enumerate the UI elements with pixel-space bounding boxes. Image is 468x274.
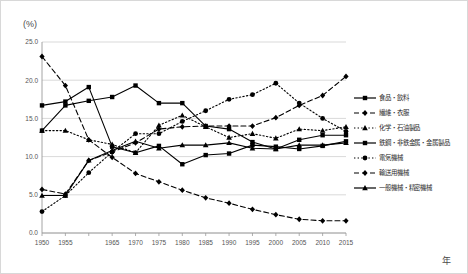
svg-text:10.0: 10.0 [25, 153, 38, 160]
svg-text:2000: 2000 [269, 239, 284, 246]
svg-text:1985: 1985 [198, 239, 213, 246]
svg-text:1990: 1990 [222, 239, 237, 246]
legend-swatch-triangle-icon [353, 182, 377, 194]
legend-label-4: 鉄鋼・非鉄金属・金属製品 [379, 137, 450, 149]
legend-swatch-diamond-icon [353, 107, 377, 119]
series-7 [39, 138, 349, 197]
x-axis-ticks: 1950195519651970197519801985199019952000… [35, 239, 354, 246]
legend-item-7[interactable]: 一般機械・精密機械 [353, 181, 465, 194]
legend-label-5: 電気機械 [379, 152, 403, 164]
svg-text:1955: 1955 [58, 239, 73, 246]
svg-text:2005: 2005 [292, 239, 307, 246]
legend-label-6: 輸送用機械 [379, 167, 409, 179]
legend-item-4[interactable]: 鉄鋼・非鉄金属・金属製品 [353, 136, 465, 149]
legend-item-5[interactable]: 電気機械 [353, 151, 465, 164]
legend-item-1[interactable]: 食品・飲料 [353, 91, 465, 104]
svg-text:5.0: 5.0 [29, 191, 38, 198]
legend-item-2[interactable]: 繊維・衣服 [353, 106, 465, 119]
series-4 [40, 83, 348, 151]
legend-label-7: 一般機械・精密機械 [379, 182, 432, 194]
y-axis-ticks: 0.05.010.015.020.025.0 [25, 38, 38, 236]
svg-text:25.0: 25.0 [25, 38, 38, 45]
svg-text:1995: 1995 [245, 239, 260, 246]
svg-text:2015: 2015 [339, 239, 354, 246]
legend-label-3: 化学・石油製品 [379, 122, 420, 134]
gridlines [42, 42, 346, 233]
svg-text:1970: 1970 [128, 239, 143, 246]
legend-item-6[interactable]: 輸送用機械 [353, 166, 465, 179]
chart-container: (%) 0.05.010.015.020.025.0 1950195519651… [0, 0, 468, 274]
svg-text:20.0: 20.0 [25, 77, 38, 84]
legend-swatch-triangle-icon [353, 122, 377, 134]
legend-label-1: 食品・飲料 [379, 92, 409, 104]
legend-swatch-square-icon [353, 92, 377, 104]
legend-item-3[interactable]: 化学・石油製品 [353, 121, 465, 134]
legend-swatch-diamond-icon [353, 167, 377, 179]
legend-label-2: 繊維・衣服 [379, 107, 409, 119]
series-6 [39, 73, 348, 196]
svg-text:0.0: 0.0 [29, 229, 38, 236]
data-series-layer [39, 54, 349, 224]
x-axis-title: 年 [442, 254, 451, 267]
svg-text:1965: 1965 [105, 239, 120, 246]
svg-text:2010: 2010 [315, 239, 330, 246]
svg-text:1975: 1975 [152, 239, 167, 246]
legend-swatch-circle-icon [353, 152, 377, 164]
svg-text:1950: 1950 [35, 239, 50, 246]
svg-text:15.0: 15.0 [25, 115, 38, 122]
svg-text:1980: 1980 [175, 239, 190, 246]
chart-legend: 食品・飲料繊維・衣服化学・石油製品鉄鋼・非鉄金属・金属製品電気機械輸送用機械一般… [353, 91, 465, 194]
series-1 [40, 85, 348, 167]
legend-swatch-square-icon [353, 137, 377, 149]
